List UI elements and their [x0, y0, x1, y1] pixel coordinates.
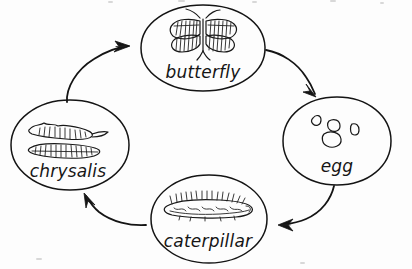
caterpillar-sketch [164, 191, 252, 221]
arrow-egg-to-caterpillar [278, 186, 334, 231]
egg-sketch [312, 116, 360, 148]
node-label-egg: egg [321, 156, 354, 176]
node-label-butterfly: butterfly [166, 62, 242, 82]
node-chrysalis[interactable]: chrysalis [11, 100, 129, 190]
node-butterfly[interactable]: butterfly [141, 5, 265, 91]
node-label-caterpillar: caterpillar [164, 231, 253, 251]
life-cycle-diagram-canvas: butterfly egg [0, 0, 412, 269]
arrow-chrysalis-to-butterfly [67, 41, 130, 102]
chrysalis-sketch [28, 123, 108, 158]
butterfly-sketch [170, 9, 236, 60]
diagram-svg: butterfly egg [0, 0, 412, 269]
arrow-caterpillar-to-chrysalis [84, 193, 146, 225]
node-egg[interactable]: egg [283, 97, 391, 185]
arrow-butterfly-to-egg [266, 50, 316, 97]
node-caterpillar[interactable]: caterpillar [151, 175, 267, 263]
node-label-chrysalis: chrysalis [30, 161, 107, 181]
